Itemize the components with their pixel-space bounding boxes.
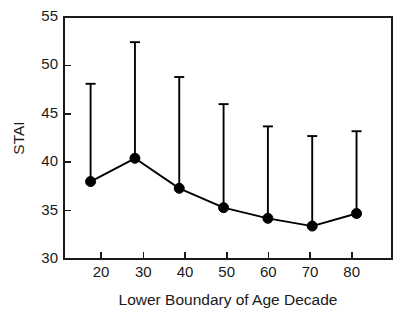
y-tick-label-55: 55 <box>41 7 58 24</box>
x-tick-label-40: 40 <box>177 263 194 280</box>
x-tick-label-30: 30 <box>135 263 152 280</box>
data-point-marker <box>130 153 140 163</box>
x-axis-tick-labels: 20 30 40 50 60 70 80 <box>93 263 360 280</box>
stai-vs-age-line-chart: 30 35 40 45 50 55 20 30 40 50 60 70 80 <box>0 0 403 319</box>
x-tick-label-70: 70 <box>302 263 319 280</box>
data-point-marker <box>263 213 273 223</box>
x-tick-label-80: 80 <box>343 263 360 280</box>
x-tick-label-20: 20 <box>93 263 110 280</box>
y-axis-tick-labels: 30 35 40 45 50 55 <box>41 7 58 266</box>
x-axis-ticks <box>101 252 352 259</box>
y-axis-ticks <box>64 17 71 259</box>
y-tick-label-50: 50 <box>41 55 58 72</box>
data-point-marker <box>86 177 96 187</box>
plot-frame <box>64 17 392 259</box>
y-axis-title: STAI <box>10 121 27 154</box>
y-tick-label-35: 35 <box>41 201 58 218</box>
x-tick-label-50: 50 <box>218 263 235 280</box>
data-point-marker <box>352 209 362 219</box>
error-bars-group <box>86 42 362 226</box>
x-tick-label-60: 60 <box>260 263 277 280</box>
chart-figure: 30 35 40 45 50 55 20 30 40 50 60 70 80 <box>0 0 403 319</box>
y-tick-label-30: 30 <box>41 249 58 266</box>
data-point-marker <box>219 203 229 213</box>
data-point-marker <box>307 221 317 231</box>
x-axis-title: Lower Boundary of Age Decade <box>119 291 338 308</box>
data-point-marker <box>174 183 184 193</box>
y-tick-label-45: 45 <box>41 104 58 121</box>
y-tick-label-40: 40 <box>41 152 58 169</box>
